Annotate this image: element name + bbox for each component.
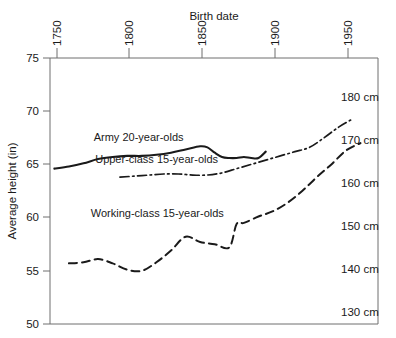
cm-label: 130 cm [341, 306, 379, 318]
series-label-army: Army 20-year-olds [94, 131, 184, 143]
x-tick-label: 1800 [123, 20, 135, 46]
x-tick-label: 1900 [269, 20, 281, 46]
x-axis-ticks: 1750 1800 1850 1900 1950 [51, 20, 354, 58]
x-tick-label: 1950 [342, 20, 354, 46]
cm-label: 180 cm [341, 91, 379, 103]
cm-label: 140 cm [341, 263, 379, 275]
x-axis-title: Birth date [189, 10, 238, 22]
x-tick-label: 1850 [196, 20, 208, 46]
y-tick-label: 75 [26, 52, 39, 64]
plot-frame [50, 58, 378, 324]
chart-svg: Birth date 1750 1800 1850 1900 1950 Aver… [0, 0, 396, 338]
cm-label: 160 cm [341, 177, 379, 189]
series-label-upper-class: Upper-class 15-year-olds [95, 153, 218, 165]
cm-label: 150 cm [341, 220, 379, 232]
cm-axis-labels: 180 cm 170 cm 160 cm 150 cm 140 cm 130 c… [341, 91, 379, 318]
x-tick-label: 1750 [51, 20, 63, 46]
height-by-birth-date-chart: Birth date 1750 1800 1850 1900 1950 Aver… [0, 0, 396, 338]
series-label-working-class: Working-class 15-year-olds [91, 207, 225, 219]
y-axis-title: Average height (in) [6, 142, 18, 239]
y-tick-label: 55 [26, 265, 39, 277]
y-tick-label: 50 [26, 318, 39, 330]
y-tick-label: 65 [26, 158, 39, 170]
y-tick-label: 70 [26, 105, 39, 117]
series-line-upper-class [120, 119, 353, 178]
y-tick-label: 60 [26, 211, 39, 223]
y-axis-ticks: 75 70 65 60 55 50 [26, 52, 50, 330]
